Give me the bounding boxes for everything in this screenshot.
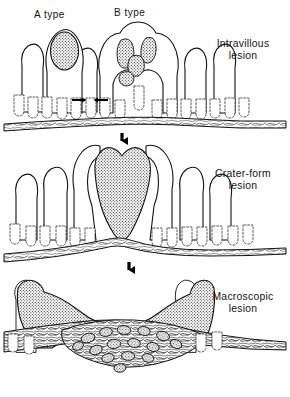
- rootlet: [182, 227, 192, 246]
- rootlet: [228, 226, 238, 245]
- rootlet: [86, 98, 96, 118]
- panel-macroscopic: Macroscopic lesion: [4, 280, 286, 373]
- rootlet: [152, 228, 162, 247]
- panel-intravillous: A type B type: [4, 7, 286, 131]
- rootlet: [197, 227, 207, 246]
- crypt-outline: [134, 86, 144, 110]
- rootlet: [8, 334, 18, 352]
- rootlet: [57, 98, 67, 119]
- label-b-type: B type: [114, 7, 145, 18]
- rootlet: [40, 226, 50, 246]
- villus-b-type: [99, 22, 179, 113]
- rootlet: [167, 228, 177, 247]
- panel-label-line1: Macroscopic: [212, 291, 273, 302]
- rootlet: [181, 99, 191, 119]
- rootlet: [210, 99, 220, 118]
- rootlet: [14, 95, 24, 116]
- panel-crater-form: Crater-form lesion: [4, 145, 286, 262]
- rootlet: [225, 98, 235, 118]
- stroma-band-panel1: [4, 117, 286, 131]
- rootlet: [243, 225, 253, 244]
- panel-label-line2: lesion: [229, 50, 258, 61]
- villous-lesion-diagram: A type B type: [0, 0, 290, 397]
- panel-label-line1: Intravillous: [217, 38, 270, 49]
- rootlet: [10, 224, 20, 244]
- panel-label-line2: lesion: [229, 180, 258, 191]
- rootlet: [196, 334, 206, 352]
- rootlet: [167, 99, 177, 119]
- rootlet: [239, 98, 249, 117]
- rootlet: [26, 226, 36, 246]
- lesion-mass-crater: [95, 148, 151, 240]
- rootlet: [196, 99, 206, 119]
- rootlet: [28, 97, 38, 118]
- rootlet: [42, 97, 52, 118]
- rootlet: [56, 226, 66, 246]
- rootlet: [71, 98, 81, 119]
- crater-rim-right: [146, 145, 173, 240]
- rootlet: [115, 100, 125, 119]
- rootlet: [70, 228, 80, 247]
- rootlet: [152, 100, 162, 119]
- rootlet: [212, 332, 222, 350]
- rootlet: [24, 336, 34, 354]
- panel-label-line1: Crater-form: [215, 168, 271, 179]
- figure-root: A type B type: [0, 0, 290, 397]
- rootlet: [212, 226, 222, 245]
- lesion-nodule-b-4: [119, 72, 134, 86]
- lesion-nodule-a-type: [51, 32, 79, 70]
- label-a-type: A type: [34, 9, 65, 20]
- panel-label-line2: lesion: [229, 303, 258, 314]
